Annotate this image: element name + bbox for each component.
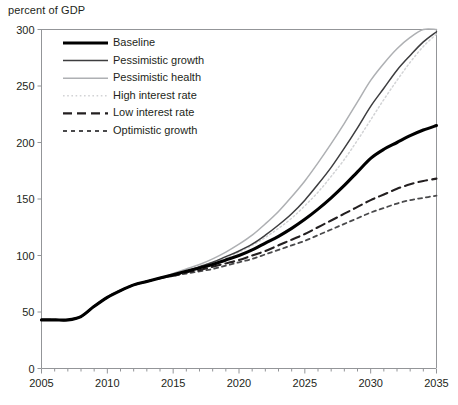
series-lines bbox=[42, 29, 437, 320]
x-tick-label: 2030 bbox=[358, 377, 382, 389]
legend-label-4: Low interest rate bbox=[113, 106, 194, 118]
x-tick-label: 2005 bbox=[29, 377, 53, 389]
chart-svg: 050100150200250300 200520102015202020252… bbox=[0, 0, 458, 405]
x-tick-label: 2025 bbox=[293, 377, 317, 389]
chart-legend: BaselinePessimistic growthPessimistic he… bbox=[63, 36, 204, 136]
y-tick-label: 100 bbox=[16, 250, 34, 262]
x-tick-label: 2035 bbox=[424, 377, 448, 389]
y-tick-label: 200 bbox=[16, 137, 34, 149]
plot-area: 050100150200250300 200520102015202020252… bbox=[0, 0, 458, 405]
legend-label-5: Optimistic growth bbox=[113, 124, 197, 136]
x-tick-label: 2010 bbox=[95, 377, 119, 389]
series-line-pessimistic-health bbox=[42, 29, 437, 320]
x-tick-label: 2020 bbox=[227, 377, 251, 389]
chart-container: percent of GDP 050100150200250300 200520… bbox=[0, 0, 458, 405]
series-line-pessimistic-growth bbox=[42, 32, 437, 320]
y-tick-label: 300 bbox=[16, 24, 34, 36]
legend-label-2: Pessimistic health bbox=[113, 71, 201, 83]
y-tick-label: 250 bbox=[16, 80, 34, 92]
series-line-baseline bbox=[42, 126, 437, 321]
y-tick-label: 150 bbox=[16, 193, 34, 205]
y-tick-label: 0 bbox=[28, 363, 34, 375]
legend-label-1: Pessimistic growth bbox=[113, 54, 204, 66]
y-axis-ticks: 050100150200250300 bbox=[16, 24, 41, 375]
legend-label-0: Baseline bbox=[113, 36, 155, 48]
series-line-low-interest-rate bbox=[42, 179, 437, 320]
y-tick-label: 50 bbox=[22, 306, 34, 318]
series-line-high-interest-rate bbox=[42, 34, 437, 320]
x-axis-ticks: 2005201020152020202520302035 bbox=[29, 369, 448, 389]
x-tick-label: 2015 bbox=[161, 377, 185, 389]
legend-label-3: High interest rate bbox=[113, 89, 197, 101]
